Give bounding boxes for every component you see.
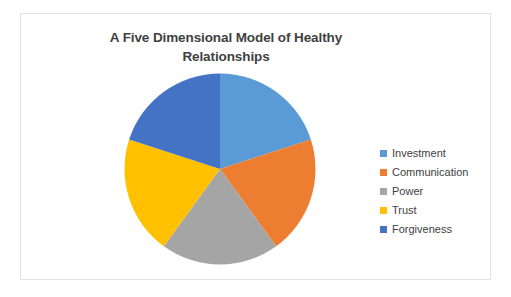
- chart-legend: InvestmentCommunicationPowerTrustForgive…: [380, 144, 505, 239]
- chart-title-line-2: Relationships: [76, 47, 376, 66]
- legend-label: Trust: [392, 205, 417, 216]
- legend-label: Investment: [392, 148, 446, 159]
- legend-label: Forgiveness: [392, 224, 452, 235]
- legend-entry-power[interactable]: Power: [380, 182, 505, 201]
- legend-swatch-icon: [380, 207, 387, 214]
- pie-slice-group: [125, 74, 316, 265]
- legend-entry-investment[interactable]: Investment: [380, 144, 505, 163]
- legend-swatch-icon: [380, 226, 387, 233]
- legend-entry-trust[interactable]: Trust: [380, 201, 505, 220]
- pie-chart: [124, 73, 316, 265]
- legend-label: Communication: [392, 167, 468, 178]
- chart-frame: A Five Dimensional Model of Healthy Rela…: [20, 13, 491, 280]
- legend-entry-forgiveness[interactable]: Forgiveness: [380, 220, 505, 239]
- legend-swatch-icon: [380, 169, 387, 176]
- legend-swatch-icon: [380, 150, 387, 157]
- pie-chart-plot-area: [124, 73, 316, 265]
- legend-swatch-icon: [380, 188, 387, 195]
- legend-label: Power: [392, 186, 423, 197]
- legend-entry-communication[interactable]: Communication: [380, 163, 505, 182]
- chart-title-line-1: A Five Dimensional Model of Healthy: [76, 28, 376, 47]
- chart-title: A Five Dimensional Model of Healthy Rela…: [76, 28, 376, 66]
